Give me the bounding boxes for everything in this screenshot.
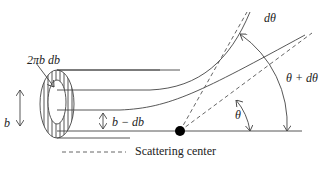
trajectory-outer	[57, 12, 250, 90]
b-label: b	[4, 116, 10, 130]
inner-ring-ellipse	[48, 80, 66, 124]
trajectory-inner	[57, 35, 305, 110]
scattering-diagram: 2πb db b b − db dθ θ + dθ θ Scattering c…	[0, 0, 329, 182]
scattering-center-dot	[175, 126, 185, 136]
d-theta-label: dθ	[264, 11, 276, 25]
scattering-center-legend-label: Scattering center	[135, 144, 216, 158]
b-minus-db-label: b − db	[112, 115, 144, 129]
theta-label: θ	[235, 108, 241, 122]
ring-area-label: 2πb db	[27, 53, 60, 67]
theta-plus-dtheta-label: θ + dθ	[286, 71, 318, 85]
